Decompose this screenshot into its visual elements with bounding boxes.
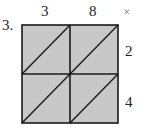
lattice-grid (0, 0, 142, 129)
